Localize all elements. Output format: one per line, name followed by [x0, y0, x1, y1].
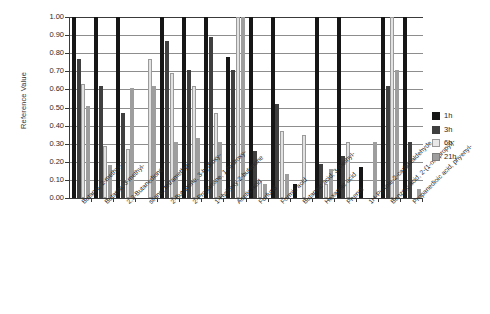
y-tick-label: 0.80	[24, 49, 64, 57]
bar-3h	[275, 104, 279, 198]
legend-item-21h: 21h	[432, 153, 457, 161]
bar-1h	[315, 17, 319, 198]
legend-label: 3h	[444, 126, 452, 134]
y-tick-label: 0.00	[24, 194, 64, 202]
legend-label: 21h	[444, 153, 457, 161]
bar-6h	[280, 131, 284, 198]
bar-group	[70, 17, 92, 198]
bar-21h	[86, 106, 90, 198]
y-tick-label: 1.00	[24, 13, 64, 21]
legend-item-6h: 6h	[432, 139, 457, 147]
chart-figure: Reference Value 0.000.100.200.300.400.50…	[0, 0, 490, 314]
y-tick-label: 0.40	[24, 122, 64, 130]
legend-swatch-icon	[432, 139, 440, 147]
bar-1h	[381, 17, 385, 198]
bar-1h	[226, 57, 230, 198]
legend-label: 6h	[444, 139, 452, 147]
bar-6h	[236, 17, 240, 198]
x-axis-tick-labels: Butanal, 2-methyl-Butanal, 3-methyl-2,3-…	[69, 200, 422, 312]
bar-1h	[94, 17, 98, 198]
y-tick-label: 0.20	[24, 158, 64, 166]
bar-1h	[72, 17, 76, 198]
bar-group	[269, 17, 291, 198]
bar-group	[291, 17, 313, 198]
y-tick-label: 0.30	[24, 140, 64, 148]
y-tick-label: 0.90	[24, 31, 64, 39]
bar-group	[357, 17, 379, 198]
legend-label: 1h	[444, 112, 452, 120]
legend-swatch-icon	[432, 153, 440, 161]
y-tick-label: 0.60	[24, 85, 64, 93]
y-tick-label: 0.10	[24, 176, 64, 184]
y-tick-label: 0.50	[24, 104, 64, 112]
legend-swatch-icon	[432, 112, 440, 120]
y-tick-label: 0.70	[24, 67, 64, 75]
legend-item-1h: 1h	[432, 112, 457, 120]
bar-6h	[390, 17, 394, 198]
bar-1h	[271, 17, 275, 198]
bar-3h	[165, 41, 169, 198]
bar-3h	[209, 37, 213, 198]
legend-item-3h: 3h	[432, 126, 457, 134]
legend-swatch-icon	[432, 126, 440, 134]
bar-3h	[77, 59, 81, 198]
bar-6h	[81, 84, 85, 198]
chart-legend: 1h3h6h21h	[432, 112, 457, 161]
bar-6h	[302, 135, 306, 198]
